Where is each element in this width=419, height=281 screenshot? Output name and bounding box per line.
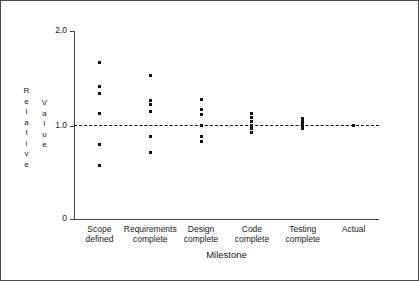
ylab-char: v <box>21 149 32 160</box>
data-point <box>149 74 152 77</box>
data-point <box>149 110 152 113</box>
data-point <box>250 124 253 127</box>
y-axis-label-relative: R e l a t i v e <box>21 86 32 170</box>
x-category-label-line2: complete <box>270 234 335 244</box>
reference-line-1 <box>74 125 379 126</box>
x-category-label-line1: Actual <box>321 224 386 234</box>
ylab-char: u <box>39 130 50 141</box>
data-point <box>98 164 101 167</box>
ylab-char: V <box>39 98 50 109</box>
ylab-char: l <box>21 107 32 118</box>
y-tick-mark-2 <box>70 31 74 32</box>
y-axis-label-value: V a l u e <box>39 98 50 151</box>
ylab-char: a <box>21 118 32 129</box>
data-point <box>250 116 253 119</box>
data-point <box>149 135 152 138</box>
data-point <box>200 124 203 127</box>
data-point <box>200 113 203 116</box>
data-point <box>301 127 304 130</box>
data-point <box>352 124 355 127</box>
data-point <box>250 120 253 123</box>
y-tick-label-2: 2.0 <box>41 26 67 35</box>
data-point <box>200 108 203 111</box>
x-category-label: Actual <box>321 224 386 234</box>
ylab-char: a <box>39 109 50 120</box>
data-point <box>149 151 152 154</box>
y-tick-label-0: 0 <box>41 214 67 223</box>
x-axis-line <box>74 219 379 220</box>
chart-figure: 2.0 1.0 0 R e l a t i v e V a l u e Scop… <box>0 0 419 281</box>
data-point <box>98 61 101 64</box>
data-point <box>98 112 101 115</box>
ylab-char: e <box>39 140 50 151</box>
ylab-char: R <box>21 86 32 97</box>
ylab-char: e <box>21 160 32 171</box>
ylab-char: e <box>21 97 32 108</box>
y-tick-mark-1 <box>70 126 74 127</box>
y-tick-mark-0 <box>70 219 74 220</box>
ylab-char: t <box>21 128 32 139</box>
data-point <box>98 143 101 146</box>
ylab-char: i <box>21 139 32 150</box>
data-point <box>149 99 152 102</box>
x-axis-title: Milestone <box>74 249 379 260</box>
data-point <box>98 85 101 88</box>
data-point <box>250 112 253 115</box>
data-point <box>200 140 203 143</box>
data-point <box>200 98 203 101</box>
data-point <box>200 135 203 138</box>
data-point <box>98 92 101 95</box>
data-point <box>149 103 152 106</box>
data-point <box>250 127 253 130</box>
ylab-char: l <box>39 119 50 130</box>
plot-area: 2.0 1.0 0 R e l a t i v e V a l u e Scop… <box>1 1 419 281</box>
data-point <box>250 131 253 134</box>
